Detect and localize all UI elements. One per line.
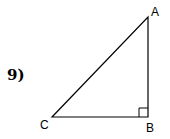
vertex-label-b: B (146, 121, 154, 135)
triangle-diagram: A B C (0, 0, 170, 139)
vertex-label-c: C (40, 118, 49, 132)
triangle-abc (52, 17, 148, 117)
right-angle-marker (139, 108, 148, 117)
vertex-label-a: A (151, 5, 159, 19)
